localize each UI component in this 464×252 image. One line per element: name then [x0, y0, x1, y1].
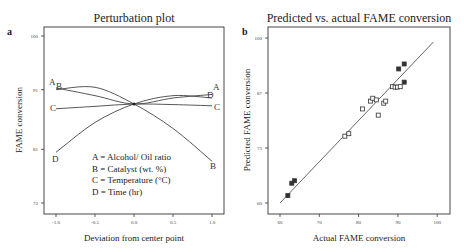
panel-b-predicted-vs-actual: b Predicted vs. actual FAME conversion 1…: [232, 0, 464, 252]
scatter-point: [343, 134, 347, 138]
legend-item: C = Temperature (°C): [92, 175, 171, 185]
chart-title-a: Perturbation plot: [94, 11, 176, 25]
scatter-points: [286, 62, 406, 198]
curve-label-left-B: B: [56, 81, 62, 91]
scatter-point: [286, 194, 290, 198]
x-tick-label: 80: [356, 220, 362, 225]
y-axis-ticks-b: 100877360: [255, 36, 269, 206]
x-tick-label: 90: [395, 220, 401, 225]
legend-item: A = Alcohol/ Oil ratio: [92, 152, 172, 162]
x-tick-label: 0.0: [131, 220, 138, 225]
x-tick-label: 100: [433, 220, 441, 225]
curve-B: [56, 87, 212, 162]
legend-item: B = Catalyst (wt. %): [92, 164, 166, 174]
panel-label-a: a: [7, 26, 12, 37]
curve-label-left-A: A: [49, 77, 56, 87]
x-tick-label: -0.5: [91, 220, 99, 225]
curve-label-left-D: D: [52, 154, 59, 164]
scatter-point: [402, 62, 406, 66]
perturbation-chart: a Perturbation plot 100918172 -1.0-0.50.…: [0, 0, 232, 252]
curve-label-right-A: A: [213, 82, 220, 92]
legend-item: D = Time (hr): [92, 187, 142, 197]
legend-a: A = Alcohol/ Oil ratioB = Catalyst (wt. …: [92, 152, 172, 197]
y-tick-label: 60: [257, 201, 263, 206]
reference-line: [280, 42, 433, 203]
chart-title-b: Predicted vs. actual FAME conversion: [267, 11, 452, 25]
y-axis-label-b: Predicted FAME conversion: [242, 68, 252, 171]
curve-label-right-B: B: [210, 161, 216, 171]
y-tick-label: 100: [255, 36, 263, 41]
x-tick-label: 70: [317, 220, 323, 225]
x-axis-label-b: Actual FAME conversion: [313, 233, 406, 243]
y-tick-label: 72: [33, 201, 39, 206]
y-tick-label: 87: [257, 91, 263, 96]
y-tick-label: 73: [257, 146, 263, 151]
scatter-point: [293, 179, 297, 183]
panel-label-b: b: [242, 26, 248, 37]
panel-a-perturbation-plot: a Perturbation plot 100918172 -1.0-0.50.…: [0, 0, 232, 252]
scatter-point: [384, 99, 388, 103]
curve-label-right-D: D: [207, 90, 214, 100]
x-axis-ticks-a: -1.0-0.50.00.51.0: [52, 214, 216, 225]
reference-line-path: [280, 42, 433, 203]
x-tick-label: 0.5: [170, 220, 177, 225]
curve-label-left-C: C: [50, 103, 56, 113]
scatter-point: [376, 113, 380, 117]
predicted-vs-actual-chart: b Predicted vs. actual FAME conversion 1…: [232, 0, 464, 252]
scatter-point: [397, 67, 401, 71]
x-tick-label: 60: [278, 220, 284, 225]
x-axis-label-a: Deviation from center point: [84, 233, 185, 243]
x-tick-label: -1.0: [52, 220, 60, 225]
scatter-point: [347, 132, 351, 136]
center-point: [133, 102, 136, 105]
y-axis-ticks-a: 100918172: [31, 34, 45, 206]
scatter-point: [361, 107, 365, 111]
y-tick-label: 81: [33, 147, 39, 152]
y-tick-label: 100: [31, 34, 39, 39]
y-tick-label: 91: [33, 88, 39, 93]
scatter-point: [374, 98, 378, 102]
x-tick-label: 1.0: [209, 220, 216, 225]
y-axis-label-a: FAME conversion: [14, 86, 24, 153]
curve-label-right-C: C: [214, 102, 220, 112]
scatter-point: [402, 80, 406, 84]
scatter-point: [398, 85, 402, 89]
x-axis-ticks-b: 60708090100: [278, 214, 442, 225]
